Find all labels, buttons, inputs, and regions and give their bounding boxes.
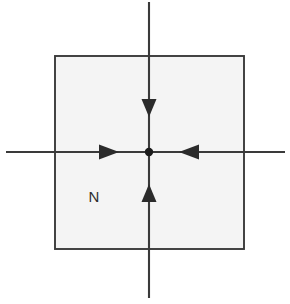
region-label-n: N bbox=[88, 188, 99, 205]
diagram-svg: N bbox=[0, 0, 290, 304]
diagram-canvas: N bbox=[0, 0, 290, 304]
origin-point bbox=[145, 148, 153, 156]
